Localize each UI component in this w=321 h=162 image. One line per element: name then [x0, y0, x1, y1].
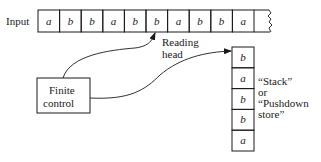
tape-symbol: b — [219, 15, 225, 27]
tape-cell: b — [81, 10, 103, 32]
tape-cell: b — [211, 10, 233, 32]
reading-head-label-line2: head — [162, 48, 183, 60]
tape-symbol: b — [68, 15, 74, 27]
control-to-head-arrow — [63, 33, 155, 78]
tape-cell: b — [124, 10, 146, 32]
stack-symbol: a — [240, 72, 246, 84]
tape-cell: b — [60, 10, 82, 32]
stack-cell: b — [232, 89, 254, 110]
stack-symbol: a — [240, 134, 246, 146]
tape-symbol: a — [111, 15, 117, 27]
tape-symbol: a — [46, 15, 52, 27]
input-tape: abbabbabba — [38, 10, 272, 32]
stack-cell: a — [232, 68, 254, 89]
reading-head-label-line1: Reading — [162, 36, 199, 48]
tape-continuation-edges — [254, 10, 270, 32]
tape-symbol: a — [176, 15, 182, 27]
stack-cell: b — [232, 109, 254, 130]
tape-symbol: a — [240, 15, 246, 27]
tape-symbol: b — [89, 15, 95, 27]
stack-symbol: b — [240, 113, 246, 125]
tape-cell: a — [168, 10, 190, 32]
tape-cell: b — [146, 10, 168, 32]
finite-control-label-line1: Finite — [49, 84, 75, 96]
tape-cell: a — [103, 10, 125, 32]
stack-cell: a — [232, 130, 254, 151]
tape-symbol: b — [197, 15, 203, 27]
tape-cell: b — [189, 10, 211, 32]
stack-symbol: b — [240, 51, 246, 63]
tape-cell: a — [232, 10, 254, 32]
tape-cell: a — [38, 10, 60, 32]
tape-symbol: b — [132, 15, 138, 27]
tape-symbol: b — [154, 15, 160, 27]
stack-cell: b — [232, 47, 254, 68]
stack: babba — [232, 47, 254, 151]
stack-label-line4: store” — [258, 108, 284, 120]
input-label: Input — [6, 15, 29, 27]
stack-symbol: b — [240, 93, 246, 105]
finite-control-label-line2: control — [43, 97, 74, 109]
control-to-stack-arrow — [90, 51, 231, 98]
tape-torn-edge — [268, 10, 272, 32]
